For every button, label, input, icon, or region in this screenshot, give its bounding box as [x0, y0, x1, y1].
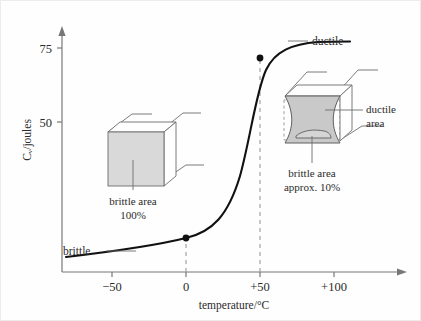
y-axis-arrowhead	[58, 26, 65, 36]
right-specimen-diagram: ductile area brittle area approx. 10%	[284, 70, 396, 193]
ductile-curve-label: ductile	[312, 35, 343, 47]
impact-energy-chart-figure: 75 50 −50 0 +50 +100 temperature/°C Cᵥ/j…	[0, 0, 421, 321]
y-ticks-group: 75 50	[40, 42, 63, 130]
x-ticks-group: −50 0 +50 +100	[102, 272, 347, 294]
x-tick-label-plus100: +100	[321, 280, 347, 294]
x-axis-title: temperature/°C	[199, 299, 270, 312]
x-axis-arrowhead	[397, 268, 407, 275]
y-axis-title: Cᵥ/joules	[21, 119, 34, 161]
left-specimen-side-face	[164, 122, 176, 186]
y-tick-label-50: 50	[40, 116, 53, 130]
left-specimen-caption-line2: 100%	[120, 209, 146, 221]
chart-canvas: 75 50 −50 0 +50 +100 temperature/°C Cᵥ/j…	[0, 0, 421, 321]
data-point-marker-ductile	[257, 55, 264, 62]
y-tick-label-75: 75	[40, 42, 53, 56]
x-tick-label-plus50: +50	[250, 280, 270, 294]
x-tick-label-0: 0	[183, 280, 189, 294]
brittle-curve-annotation: brittle	[63, 245, 136, 257]
left-specimen-caption-line1: brittle area	[109, 195, 156, 207]
left-specimen-diagram: brittle area 100%	[108, 113, 204, 221]
x-tick-label-minus50: −50	[102, 280, 122, 294]
brittle-curve-label: brittle	[63, 245, 90, 257]
data-point-marker-brittle	[183, 235, 190, 242]
right-specimen-caption-line2: approx. 10%	[284, 181, 340, 193]
right-specimen-caption-line1: brittle area	[288, 167, 335, 179]
ductile-area-label-line2: area	[366, 117, 384, 129]
ductile-area-label-line1: ductile	[366, 103, 396, 115]
left-specimen-front-face	[108, 132, 164, 186]
